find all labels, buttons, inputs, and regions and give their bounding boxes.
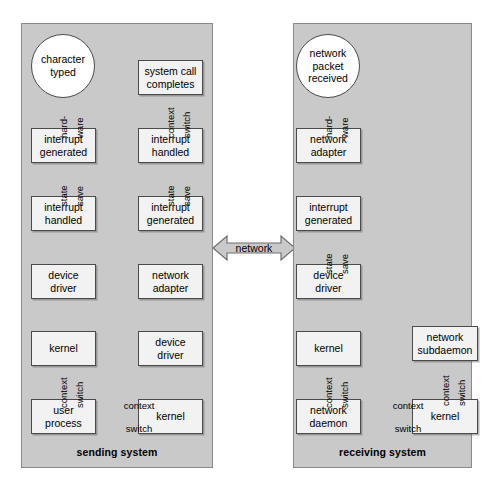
edge-label-r-statesave-right: save bbox=[340, 254, 350, 274]
node-s-char-typed: charactertyped bbox=[31, 34, 95, 98]
node-r-packet: networkpacketreceived bbox=[296, 34, 360, 98]
node-label: interruptgenerated bbox=[303, 201, 354, 227]
node-r-kernel: kernel bbox=[296, 331, 361, 366]
node-s-device-driver: devicedriver bbox=[31, 264, 96, 299]
edge-label-r-hardware-right: ware bbox=[340, 117, 350, 138]
panel-sending-label: sending system bbox=[22, 446, 212, 458]
node-label: kernel bbox=[47, 342, 80, 355]
edge-label-s-statesave-left: state bbox=[59, 185, 69, 206]
node-r-int-generated: interruptgenerated bbox=[296, 196, 361, 231]
node-label: charactertyped bbox=[39, 53, 87, 79]
panel-receiving-label: receiving system bbox=[294, 446, 471, 458]
node-label: kernel bbox=[154, 410, 187, 423]
edge-label-s-ctx-switch-h-line1: context bbox=[117, 401, 161, 411]
network-link-label: network bbox=[230, 242, 278, 254]
node-s-network-adapter: networkadapter bbox=[138, 264, 203, 299]
edge-label-r-ctxswitch-left: context bbox=[324, 377, 334, 408]
node-r-subdaemon: networksubdaemon bbox=[412, 326, 478, 361]
edge-label-r-ctxswitch-2-right: switch bbox=[457, 380, 467, 406]
edge-label-s-ctxswitch-2-right: switch bbox=[182, 112, 192, 138]
diagram-canvas: sending system receiving system network … bbox=[0, 0, 495, 489]
node-label: devicedriver bbox=[46, 269, 80, 295]
edge-label-s-ctxswitch-2-left: context bbox=[166, 107, 176, 138]
node-label: networkpacketreceived bbox=[306, 47, 350, 85]
edge-label-s-statesave-2-left: state bbox=[166, 185, 176, 206]
edge-label-r-hardware-left: hard- bbox=[324, 116, 334, 138]
edge-label-r-statesave-left: state bbox=[324, 253, 334, 274]
edge-label-s-ctx-switch-h-line2: switch bbox=[117, 424, 161, 434]
edge-label-r-ctxswitch-right: switch bbox=[340, 382, 350, 408]
edge-label-r-ctx-switch-h-line2: switch bbox=[386, 424, 430, 434]
edge-label-r-ctxswitch-2-left: context bbox=[441, 375, 451, 406]
node-label: networkadapter bbox=[150, 269, 191, 295]
edge-label-r-ctx-switch-h-line1: context bbox=[386, 401, 430, 411]
node-label: kernel bbox=[312, 342, 345, 355]
node-s-kernel-left: kernel bbox=[31, 331, 96, 366]
node-s-device-driver-2: devicedriver bbox=[138, 331, 203, 366]
node-label: networksubdaemon bbox=[416, 331, 475, 357]
edge-label-s-hardware-left: hard- bbox=[59, 116, 69, 138]
node-s-syscall: system callcompletes bbox=[138, 60, 203, 95]
node-label: devicedriver bbox=[153, 336, 187, 362]
edge-label-s-ctxswitch-right: switch bbox=[75, 382, 85, 408]
edge-label-s-statesave-right: save bbox=[75, 186, 85, 206]
edge-label-s-hardware-right: ware bbox=[75, 117, 85, 138]
edge-label-s-ctxswitch-left: context bbox=[59, 377, 69, 408]
node-label: kernel bbox=[429, 410, 462, 423]
edge-label-s-statesave-2-right: save bbox=[182, 186, 192, 206]
node-label: system callcompletes bbox=[143, 65, 199, 91]
